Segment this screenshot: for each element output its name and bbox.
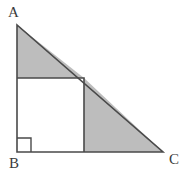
vertex-label-b: B	[9, 156, 19, 171]
inscribed-square-region	[17, 78, 84, 152]
geometry-figure: A B C	[0, 0, 194, 178]
vertex-label-c: C	[169, 152, 179, 167]
figure-canvas	[0, 0, 194, 178]
vertex-label-a: A	[8, 5, 19, 20]
